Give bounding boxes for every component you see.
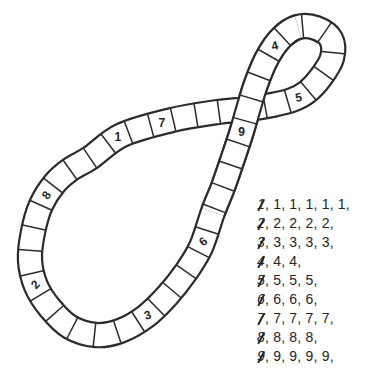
crossed-out-number: 1 [257, 195, 265, 214]
track-cell-number-7: 7 [158, 116, 165, 130]
sequence-row-3: 3, 3, 3, 3, 3, [257, 233, 350, 252]
crossed-out-number: 2 [257, 214, 265, 233]
sequence-row-4: 4, 4, 4, [257, 252, 350, 271]
sequence-row-8: 8, 8, 8, 8, [257, 328, 350, 347]
sequence-row-9: 9, 9, 9, 9, 9, [257, 347, 350, 366]
crossed-out-number: 9 [257, 347, 265, 366]
crossed-out-number: 5 [257, 271, 265, 290]
sequence-row-1: 1, 1, 1, 1, 1, 1, [257, 195, 350, 214]
track-cell-number-1: 1 [115, 130, 122, 144]
sequence-row-7: 7, 7, 7, 7, 7, [257, 309, 350, 328]
crossed-out-number: 7 [257, 309, 265, 328]
sequence-row-2: 2, 2, 2, 2, 2, [257, 214, 350, 233]
sequence-row-6: 6, 6, 6, 6, [257, 290, 350, 309]
number-sequence-list: 1, 1, 1, 1, 1, 1,2, 2, 2, 2, 2,3, 3, 3, … [257, 195, 350, 366]
track-cell-number-9: 9 [238, 125, 245, 139]
crossed-out-number: 6 [257, 290, 265, 309]
sequence-row-5: 5, 5, 5, 5, [257, 271, 350, 290]
crossed-out-number: 3 [257, 233, 265, 252]
crossed-out-number: 4 [257, 252, 265, 271]
crossed-out-number: 8 [257, 328, 265, 347]
puzzle-page: 123456789 1, 1, 1, 1, 1, 1,2, 2, 2, 2, 2… [0, 0, 366, 373]
